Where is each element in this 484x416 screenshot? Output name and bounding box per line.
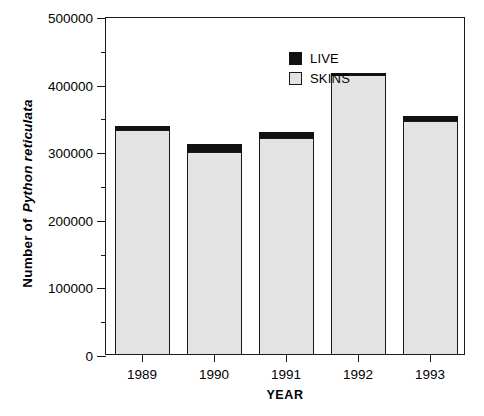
plot-area: 0100000200000300000400000500000 19891990… [105, 17, 465, 355]
bar-segment-skins[interactable] [403, 121, 458, 354]
y-tick-minor [101, 187, 106, 188]
bar-1990[interactable] [187, 144, 242, 354]
x-tick-label: 1990 [199, 367, 229, 382]
bar-segment-skins[interactable] [331, 74, 386, 354]
x-tick [286, 354, 287, 362]
y-tick-label: 500000 [48, 11, 93, 26]
bar-segment-live[interactable] [403, 116, 458, 121]
legend-label-live: LIVE [310, 51, 339, 66]
x-tick [358, 354, 359, 362]
legend-swatch-live-icon [289, 52, 302, 65]
x-tick-label: 1991 [271, 367, 301, 382]
y-tick-label: 100000 [48, 281, 93, 296]
x-tick-label: 1992 [343, 367, 373, 382]
x-tick [142, 354, 143, 362]
bar-segment-skins[interactable] [187, 152, 242, 354]
chart-legend: LIVE SKINS [289, 49, 350, 89]
x-tick-label: 1993 [415, 367, 445, 382]
y-tick-label: 300000 [48, 146, 93, 161]
y-tick-major [97, 221, 106, 222]
chart-figure: Number ofPython reticulata 0100000200000… [0, 0, 484, 416]
x-tick [214, 354, 215, 362]
y-axis-title-container: Number ofPython reticulata [0, 0, 34, 416]
legend-swatch-skins-icon [289, 72, 302, 85]
bar-segment-skins[interactable] [259, 138, 314, 354]
bar-segment-live[interactable] [115, 126, 170, 130]
legend-item-live: LIVE [289, 49, 350, 67]
y-tick-label: 200000 [48, 213, 93, 228]
x-tick-label: 1989 [127, 367, 157, 382]
y-tick-major [97, 86, 106, 87]
y-tick-label: 0 [85, 349, 93, 364]
bar-segment-live[interactable] [187, 144, 242, 152]
bar-1989[interactable] [115, 126, 170, 354]
y-axis-title-species: Python reticulata [20, 99, 35, 218]
y-tick-minor [101, 52, 106, 53]
x-axis-title: YEAR [105, 388, 465, 402]
y-tick-label: 400000 [48, 78, 93, 93]
y-tick-major [97, 153, 106, 154]
y-axis-title: Number ofPython reticulata [20, 49, 35, 339]
legend-item-skins: SKINS [289, 69, 350, 87]
y-tick-major [97, 288, 106, 289]
bar-segment-live[interactable] [259, 132, 314, 138]
y-tick-minor [101, 322, 106, 323]
y-tick-major [97, 18, 106, 19]
bar-1993[interactable] [403, 116, 458, 354]
y-tick-minor [101, 255, 106, 256]
y-tick-minor [101, 119, 106, 120]
y-tick-major [97, 356, 106, 357]
y-axis-title-prefix: Number of [20, 218, 35, 287]
bar-1991[interactable] [259, 132, 314, 354]
legend-label-skins: SKINS [310, 71, 350, 86]
bar-segment-skins[interactable] [115, 130, 170, 354]
x-tick [430, 354, 431, 362]
bar-1992[interactable] [331, 73, 386, 354]
